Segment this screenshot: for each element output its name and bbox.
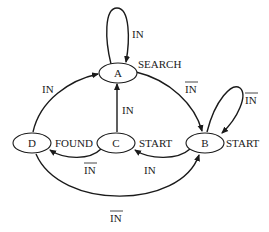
label-b-self: IN: [245, 94, 257, 106]
label-d-to-b: IN: [110, 212, 122, 224]
state-diagram: A B C D SEARCH START START FOUND IN IN I…: [0, 0, 269, 232]
edge-a-to-b: [136, 72, 202, 131]
node-a: A: [99, 63, 137, 83]
edge-b-to-c: [135, 149, 190, 157]
edge-c-to-d: [50, 149, 101, 157]
label-a-self: IN: [132, 28, 144, 40]
label-c-to-a: IN: [122, 104, 134, 116]
edge-d-to-b: [36, 154, 199, 196]
output-d: FOUND: [55, 137, 93, 149]
label-d-to-a: IN: [42, 83, 54, 95]
label-c-to-d: IN: [84, 164, 96, 176]
label-b-to-c: IN: [144, 164, 156, 176]
edge-b-self: [207, 87, 243, 133]
node-c-label: C: [112, 137, 119, 149]
node-d: D: [13, 133, 51, 153]
node-b: B: [186, 133, 224, 153]
output-a: SEARCH: [138, 58, 181, 70]
output-c: START: [139, 137, 173, 149]
node-d-label: D: [28, 137, 36, 149]
node-a-label: A: [114, 67, 122, 79]
output-b: START: [226, 137, 260, 149]
edge-a-self: [107, 8, 129, 64]
node-c: C: [97, 133, 135, 153]
node-b-label: B: [201, 137, 208, 149]
label-a-to-b: IN: [185, 83, 197, 95]
